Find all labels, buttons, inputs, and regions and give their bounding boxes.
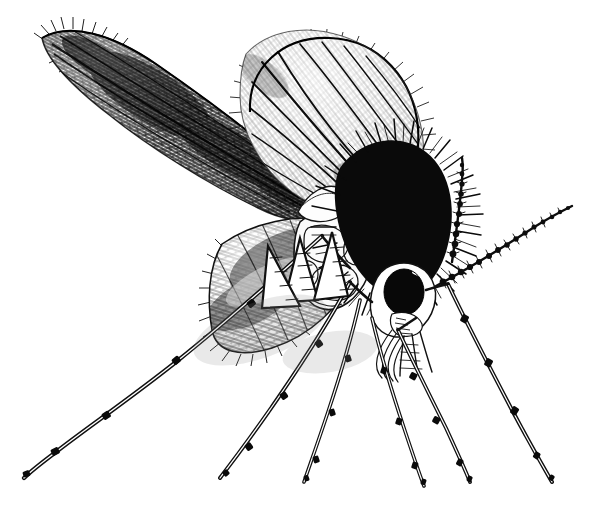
illustration-canvas: mosquito pen-and-ink stipple and hatchin… (0, 0, 611, 519)
mosquito-illustration (0, 0, 611, 519)
